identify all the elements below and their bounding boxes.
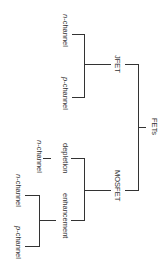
suffix: -channel — [14, 230, 23, 259]
node-jfet-label: JFET — [113, 55, 122, 73]
node-depletion-n-channel: n-channel — [35, 140, 43, 173]
connector-fets-stub — [138, 127, 146, 128]
suffix: -channel — [61, 18, 70, 47]
node-jfet: JFET — [113, 55, 121, 73]
fet-classification-diagram: FETs JFET n-channel p-channel MOSFET dep… — [0, 0, 161, 267]
node-depletion-label: depletion — [61, 143, 70, 173]
connector-enhancement-p — [25, 246, 39, 247]
suffix: -channel — [14, 178, 23, 207]
suffix: -channel — [61, 81, 70, 110]
node-fets-label: FETs — [150, 118, 159, 135]
suffix: -channel — [35, 144, 44, 173]
connector-depletion-n — [43, 158, 51, 159]
connector-mosfet-left — [85, 190, 111, 191]
connector-jfet-right — [125, 64, 138, 65]
node-enhancement-p-channel: p-channel — [14, 226, 22, 259]
connector-mosfet-bracket — [84, 158, 85, 221]
node-fets: FETs — [150, 118, 158, 135]
connector-jfet-n — [72, 34, 84, 35]
connector-mosfet-right — [125, 190, 138, 191]
connector-enhancement — [71, 220, 84, 221]
connector-jfet-p — [72, 97, 84, 98]
node-enhancement-n-channel: n-channel — [14, 174, 22, 207]
connector-fets-bracket — [138, 64, 139, 191]
connector-jfet-bracket — [84, 34, 85, 98]
node-mosfet: MOSFET — [113, 170, 121, 201]
connector-jfet-left — [85, 64, 111, 65]
node-enhancement-label: enhancement — [61, 193, 70, 238]
node-depletion: depletion — [61, 143, 69, 173]
node-jfet-n-channel: n-channel — [61, 14, 69, 47]
connector-depletion — [71, 158, 84, 159]
connector-enhancement-bracket — [39, 195, 40, 247]
node-mosfet-label: MOSFET — [113, 170, 122, 201]
node-jfet-p-channel: p-channel — [61, 77, 69, 110]
connector-enhancement-n — [25, 195, 39, 196]
node-enhancement: enhancement — [61, 193, 69, 238]
connector-enhancement-left — [40, 220, 56, 221]
